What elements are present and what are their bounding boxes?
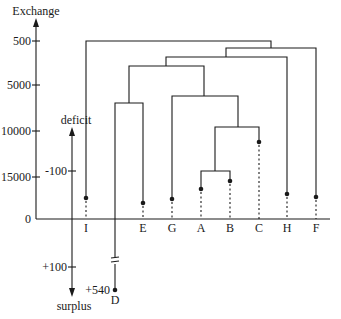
leaf-label-H: H — [283, 221, 292, 235]
exchange-axis-label: Exchange — [12, 4, 59, 18]
tick-500: 500 — [13, 34, 31, 48]
outlier-value-label: +540 — [85, 283, 110, 297]
tick-plus-100: +100 — [42, 260, 67, 274]
dendrogram-figure: Exchange 500 5000 10000 15000 0 deficit … — [0, 0, 341, 319]
tick-10000: 10000 — [1, 124, 31, 138]
exchange-axis: Exchange 500 5000 10000 15000 0 — [1, 4, 60, 226]
leaf-label-A: A — [197, 221, 206, 235]
deficit-arrow-up-icon — [69, 127, 75, 136]
leaf-label-E: E — [139, 221, 146, 235]
leaf-label-G: G — [168, 221, 177, 235]
leaf-label-F: F — [313, 221, 320, 235]
tick-15000: 15000 — [1, 170, 31, 184]
dendrogram-branches — [86, 41, 316, 290]
axis-arrow-up-icon — [33, 18, 39, 27]
leaf-dot-E — [141, 201, 146, 206]
leaf-dot-G — [170, 197, 175, 202]
surplus-arrow-down-icon — [69, 288, 75, 297]
dendrogram-canvas: Exchange 500 5000 10000 15000 0 deficit … — [0, 0, 341, 319]
surplus-label: surplus — [57, 299, 92, 313]
leaf-label-I: I — [84, 221, 88, 235]
leaf-dot-D — [113, 288, 118, 293]
tick-5000: 5000 — [7, 78, 31, 92]
leaf-dot-A — [199, 187, 204, 192]
leaf-label-B: B — [226, 221, 234, 235]
leaf-labels: I E G A B C H F D +540 — [84, 221, 320, 307]
tick-0: 0 — [25, 212, 31, 226]
tick-minus-100: -100 — [45, 164, 67, 178]
axis-break-icon — [111, 257, 119, 262]
leaf-dot-I — [84, 196, 89, 201]
leaf-dot-C — [257, 140, 262, 145]
leaf-dot-H — [285, 192, 290, 197]
leaf-label-C: C — [255, 221, 263, 235]
deficit-label: deficit — [61, 113, 92, 127]
leaf-label-D: D — [111, 293, 120, 307]
leaf-dot-F — [314, 195, 319, 200]
leaf-dot-B — [228, 179, 233, 184]
